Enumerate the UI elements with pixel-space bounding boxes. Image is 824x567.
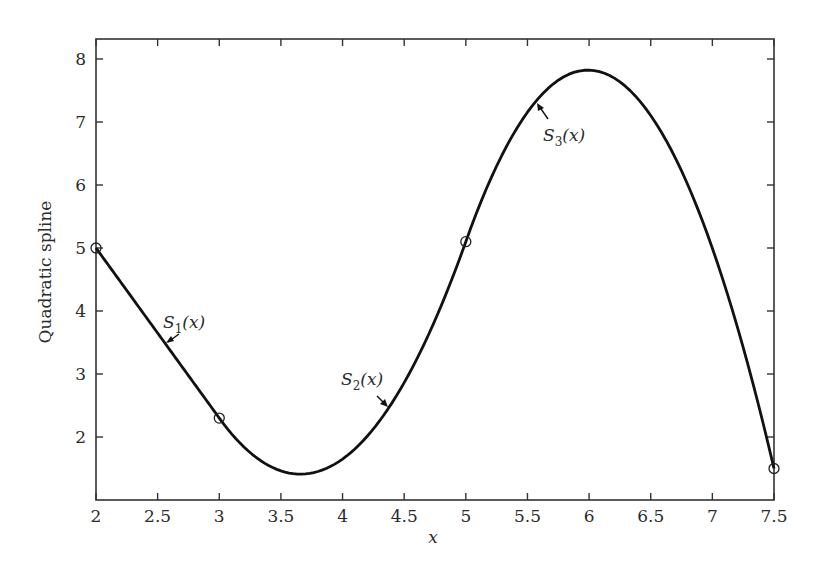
annotation-s2: S2(x)	[341, 369, 388, 407]
x-tick-label: 7	[707, 506, 718, 526]
svg-text:S3(x): S3(x)	[543, 125, 585, 149]
tick-labels: 22.533.544.555.566.577.52345678	[75, 49, 787, 526]
spline-curve	[96, 70, 774, 474]
x-tick-label: 6.5	[637, 506, 664, 526]
arrowhead-s3	[537, 103, 544, 111]
y-tick-label: 6	[75, 175, 86, 195]
svg-text:S1(x): S1(x)	[163, 312, 205, 336]
y-tick-label: 3	[75, 364, 86, 384]
knot-markers	[91, 237, 779, 474]
axis-ticks	[96, 39, 774, 500]
quadratic-spline-chart: 22.533.544.555.566.577.52345678 S1(x) S2…	[0, 0, 824, 567]
annotation-s1: S1(x)	[163, 312, 205, 343]
arrowhead-s1	[166, 336, 174, 343]
y-tick-label: 7	[75, 112, 86, 132]
x-tick-label: 4.5	[391, 506, 418, 526]
y-axis-label: Quadratic spline	[35, 201, 55, 344]
x-tick-label: 5	[460, 506, 471, 526]
x-tick-label: 6	[584, 506, 595, 526]
y-tick-label: 8	[75, 49, 86, 69]
x-tick-label: 4	[337, 506, 348, 526]
x-axis-label: x	[428, 527, 438, 547]
x-tick-label: 5.5	[514, 506, 541, 526]
svg-text:S2(x): S2(x)	[341, 369, 383, 393]
x-tick-label: 7.5	[760, 506, 787, 526]
y-tick-label: 5	[75, 238, 86, 258]
x-tick-label: 2.5	[144, 506, 171, 526]
x-tick-label: 3.5	[267, 506, 294, 526]
plot-frame	[96, 39, 774, 500]
y-tick-label: 2	[75, 427, 86, 447]
x-tick-label: 3	[214, 506, 225, 526]
annotation-s3: S3(x)	[537, 103, 585, 149]
y-tick-label: 4	[75, 301, 86, 321]
x-tick-label: 2	[91, 506, 102, 526]
